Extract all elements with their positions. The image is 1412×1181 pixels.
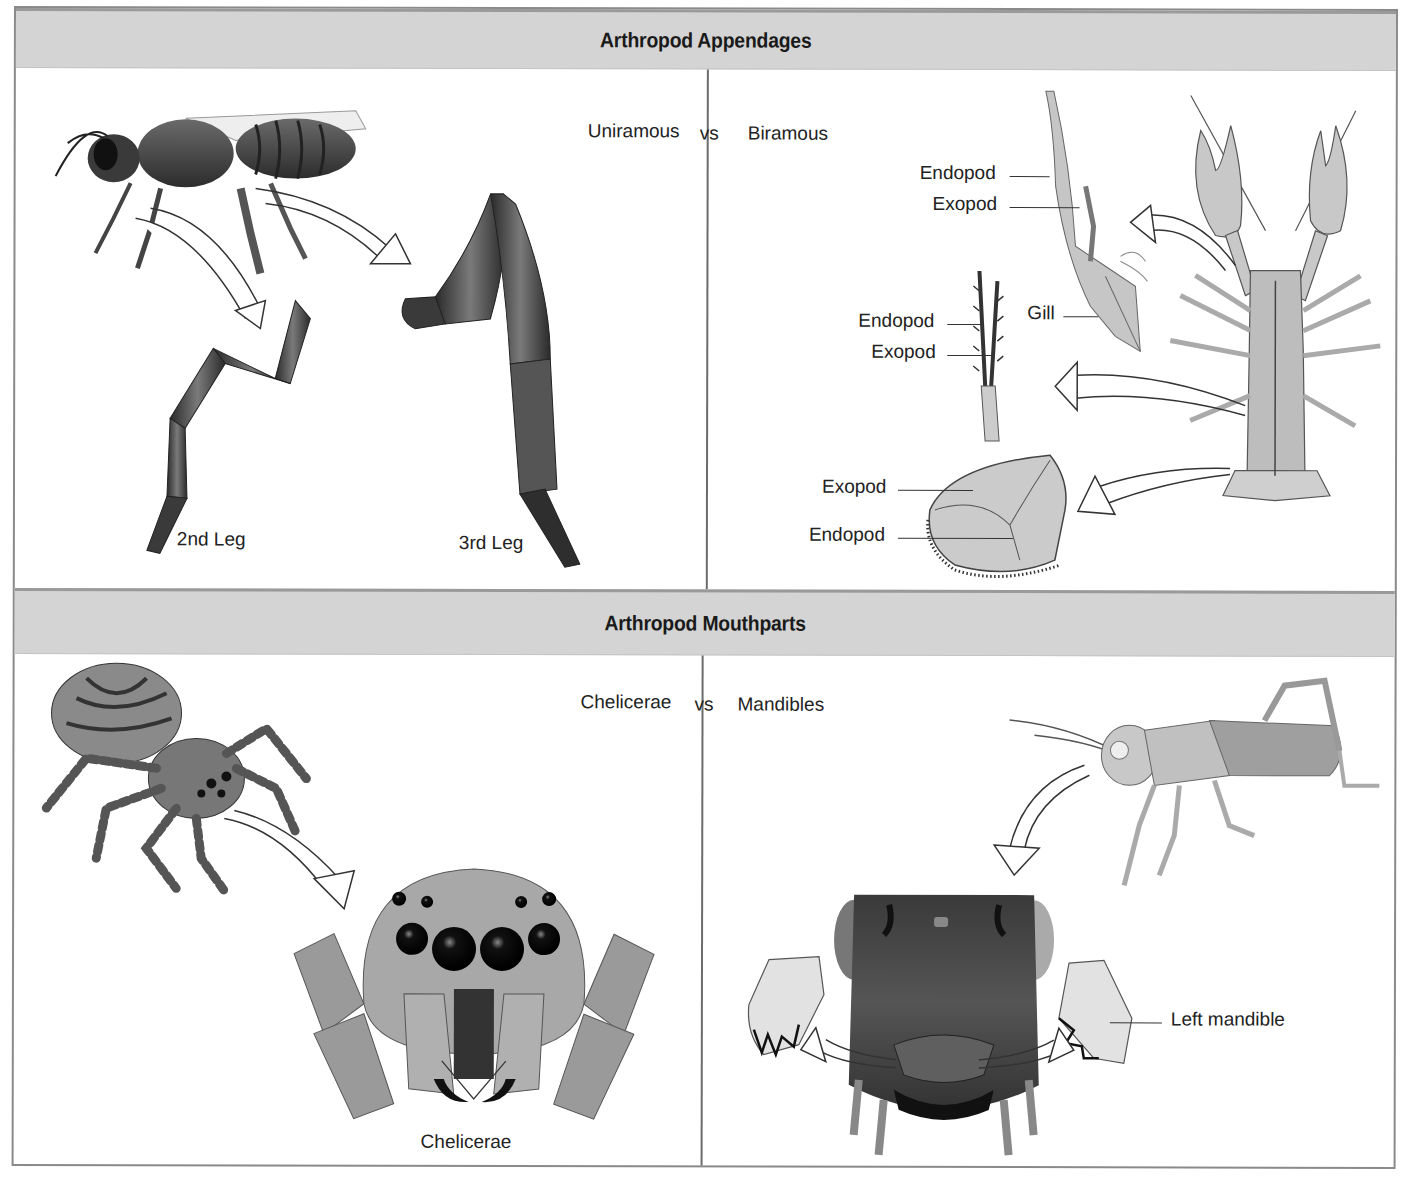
- label-chelicerae: Chelicerae: [421, 1131, 512, 1153]
- comparison-right-biramous: Biramous: [748, 123, 828, 145]
- comparison-left-uniramous: Uniramous: [588, 120, 680, 142]
- figure-frame: Arthropod Appendages Uniramous vs Biramo…: [12, 6, 1398, 1169]
- section-header-mouthparts: Arthropod Mouthparts: [15, 588, 1395, 657]
- label-left-mandible: Left mandible: [1171, 1008, 1285, 1030]
- label-swimmeret-endopod: Endopod: [858, 310, 934, 332]
- label-walking-leg-exopod: Exopod: [933, 193, 997, 215]
- section-header-appendages: Arthropod Appendages: [16, 8, 1396, 71]
- arrow-to-right-mandible: [796, 1020, 906, 1070]
- section-title-mouthparts: Arthropod Mouthparts: [604, 611, 805, 635]
- panel-divider-top: [706, 69, 709, 589]
- section-title-appendages: Arthropod Appendages: [600, 28, 811, 52]
- arrow-to-uropod: [1070, 456, 1240, 526]
- label-gill: Gill: [1027, 302, 1054, 324]
- leader-line: [947, 355, 993, 356]
- comparison-vs-bottom: vs: [695, 693, 714, 715]
- label-swimmeret-exopod: Exopod: [871, 341, 935, 363]
- leader-line: [947, 324, 983, 325]
- leader-line: [1110, 1022, 1162, 1023]
- leader-line: [1063, 316, 1098, 317]
- arrow-to-walking-leg: [1115, 200, 1255, 280]
- third-leg-illustration: [385, 189, 586, 569]
- arrow-to-swimmeret: [1045, 360, 1255, 420]
- leader-line: [898, 490, 973, 491]
- comparison-vs-top: vs: [700, 122, 719, 144]
- leader-line: [1010, 207, 1080, 208]
- arrow-to-grasshopper-head: [984, 760, 1104, 880]
- label-walking-leg-endopod: Endopod: [920, 162, 996, 184]
- spider-face-closeup-illustration: [284, 854, 665, 1125]
- label-3rd-leg: 3rd Leg: [459, 532, 523, 554]
- leader-line: [1010, 176, 1050, 177]
- panel-divider-bottom: [701, 655, 704, 1165]
- label-uropod-endopod: Endopod: [809, 524, 885, 546]
- comparison-left-chelicerae: Chelicerae: [581, 691, 672, 713]
- second-leg-illustration: [125, 288, 326, 568]
- comparison-right-mandibles: Mandibles: [738, 694, 825, 716]
- arrow-to-left-mandible: [974, 1020, 1084, 1070]
- label-2nd-leg: 2nd Leg: [177, 528, 246, 550]
- crayfish-illustration: [1155, 90, 1396, 511]
- label-uropod-exopod: Exopod: [822, 476, 886, 498]
